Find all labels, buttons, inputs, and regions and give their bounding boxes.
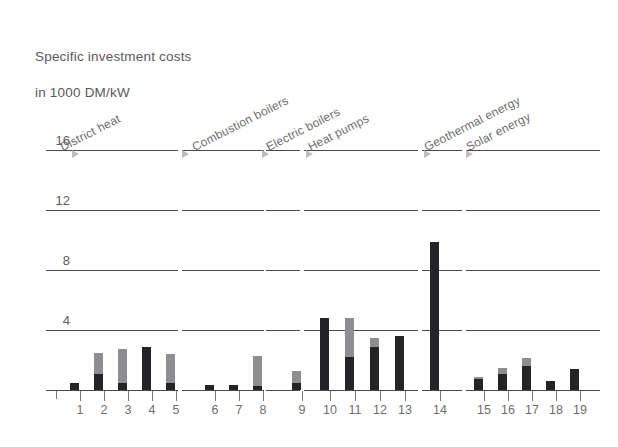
x-axis-tick-mark-12 [380, 391, 381, 401]
bar-2 [94, 353, 103, 391]
bar-8-upper-segment [253, 356, 262, 387]
gridline-4-seg-5 [422, 330, 462, 331]
x-axis-tick-mark-14 [440, 391, 441, 401]
bar-13-lower-segment [395, 336, 404, 390]
x-axis-label-5: 5 [161, 403, 191, 417]
bar-9-upper-segment [292, 371, 301, 383]
x-axis-tick-mark-19 [580, 391, 581, 401]
x-axis-tick-mark-origin [56, 391, 57, 399]
bar-19 [570, 369, 579, 390]
bar-12-lower-segment [370, 347, 379, 391]
gridline-12-seg-6 [466, 210, 600, 211]
x-axis-tick-mark-17 [532, 391, 533, 401]
x-axis-tick-mark-3 [128, 391, 129, 401]
bar-17-lower-segment [522, 366, 531, 390]
x-axis-tick-mark-8 [263, 391, 264, 401]
gridline-4-seg-1 [46, 330, 178, 331]
bar-8-lower-segment [253, 386, 262, 390]
x-axis-segment-4 [304, 390, 418, 391]
x-axis-tick-mark-1 [80, 391, 81, 401]
bar-18-lower-segment [546, 381, 555, 390]
bar-12-upper-segment [370, 338, 379, 347]
plot-area: 481216District heatCombustion boilersEle… [0, 0, 618, 447]
bar-11 [345, 318, 354, 390]
group-marker-triangle-icon-5 [424, 150, 431, 158]
bar-18 [546, 381, 555, 390]
bar-3-lower-segment [118, 383, 127, 390]
gridline-12-seg-4 [304, 210, 418, 211]
gridline-8-seg-6 [466, 270, 600, 271]
x-axis-tick-mark-15 [484, 391, 485, 401]
bar-5-lower-segment [166, 383, 175, 391]
group-marker-triangle-icon-6 [466, 150, 473, 158]
bar-7 [229, 385, 238, 390]
bar-11-upper-segment [345, 318, 354, 357]
bar-16-lower-segment [498, 374, 507, 391]
gridline-12-seg-3 [266, 210, 300, 211]
x-axis-segment-1 [46, 390, 178, 391]
bar-10 [320, 318, 329, 390]
bar-4 [142, 347, 151, 391]
bar-14 [430, 242, 439, 391]
x-axis-label-8: 8 [248, 403, 278, 417]
x-axis-segment-2 [182, 390, 264, 391]
gridline-4-seg-3 [266, 330, 300, 331]
x-axis-segment-5 [422, 390, 462, 391]
y-axis-tick-4: 4 [46, 313, 70, 328]
bar-16 [498, 368, 507, 390]
group-marker-triangle-icon-3 [262, 150, 269, 158]
investment-cost-chart: Specific investment costs in 1000 DM/kW … [0, 0, 618, 447]
bar-10-lower-segment [320, 318, 329, 390]
x-axis-tick-mark-16 [508, 391, 509, 401]
bar-5 [166, 354, 175, 390]
x-axis-tick-mark-6 [215, 391, 216, 401]
gridline-12-seg-2 [182, 210, 264, 211]
x-axis-tick-mark-11 [355, 391, 356, 401]
bar-13 [395, 336, 404, 390]
bar-15 [474, 377, 483, 391]
bar-14-lower-segment [430, 242, 439, 391]
gridline-16-seg-6 [466, 150, 600, 151]
bar-1-lower-segment [70, 383, 79, 391]
bar-17-upper-segment [522, 358, 531, 366]
bar-17 [522, 358, 531, 390]
gridline-12-seg-1 [46, 210, 178, 211]
gridline-8-seg-5 [422, 270, 462, 271]
x-axis-tick-mark-7 [239, 391, 240, 401]
bar-2-lower-segment [94, 374, 103, 391]
bar-15-lower-segment [474, 379, 483, 390]
bar-11-lower-segment [345, 357, 354, 390]
bar-3-upper-segment [118, 349, 127, 384]
gridline-8-seg-1 [46, 270, 178, 271]
gridline-8-seg-4 [304, 270, 418, 271]
bar-8 [253, 356, 262, 391]
bar-12 [370, 338, 379, 391]
gridline-8-seg-3 [266, 270, 300, 271]
gridline-16-seg-4 [304, 150, 418, 151]
bar-9-lower-segment [292, 383, 301, 391]
y-axis-tick-12: 12 [46, 193, 70, 208]
x-axis-tick-mark-5 [176, 391, 177, 401]
group-marker-triangle-icon-1 [72, 150, 79, 158]
bar-19-lower-segment [570, 369, 579, 390]
gridline-4-seg-6 [466, 330, 600, 331]
x-axis-label-13: 13 [390, 403, 420, 417]
gridline-12-seg-5 [422, 210, 462, 211]
x-axis-tick-mark-10 [330, 391, 331, 401]
group-marker-triangle-icon-4 [306, 150, 313, 158]
bar-2-upper-segment [94, 353, 103, 374]
x-axis-label-9: 9 [287, 403, 317, 417]
x-axis-label-14: 14 [425, 403, 455, 417]
x-axis-segment-3 [266, 390, 300, 391]
bar-1 [70, 383, 79, 391]
bar-4-lower-segment [142, 347, 151, 391]
x-axis-tick-mark-4 [152, 391, 153, 401]
x-axis-label-19: 19 [565, 403, 595, 417]
bar-6 [205, 385, 214, 390]
bar-5-upper-segment [166, 354, 175, 383]
bar-6-lower-segment [205, 385, 214, 390]
bar-9 [292, 371, 301, 391]
bar-7-lower-segment [229, 385, 238, 390]
x-axis-tick-mark-9 [302, 391, 303, 401]
gridline-8-seg-2 [182, 270, 264, 271]
